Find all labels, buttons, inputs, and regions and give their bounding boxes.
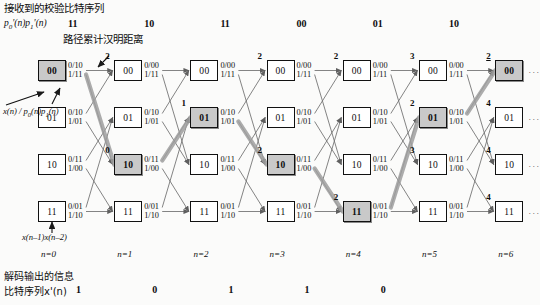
state-node-01-stage-5[interactable]: 01: [419, 107, 447, 128]
path-metric-01-stage-5: 2: [410, 98, 415, 108]
edge-label-one: 1/11: [144, 70, 159, 79]
edge-label-one: 1/00: [68, 164, 83, 173]
edge-11-to-01-stage-0: [86, 118, 113, 208]
path-metric-10-stage-5: 3: [410, 145, 415, 155]
survivor-path-segment-4: [391, 118, 419, 208]
path-metric-10-stage-6: 4: [486, 145, 491, 155]
state-node-00-stage-1[interactable]: 00: [114, 60, 142, 81]
state-node-label: 10: [352, 160, 362, 170]
edge-01-to-00-stage-2: [238, 71, 265, 114]
edge-label-pair-10-stage-4: 0/111/00: [373, 155, 388, 174]
decoded-bit: 1: [228, 285, 233, 295]
state-node-11-stage-4[interactable]: 11: [343, 201, 371, 222]
edge-label-one: 1/11: [373, 70, 388, 79]
path-metric-00-stage-3: 2: [258, 51, 263, 61]
continuation-marker-00: ···: [528, 67, 540, 77]
state-node-00-stage-5[interactable]: 00: [419, 60, 447, 81]
state-node-10-stage-3[interactable]: 10: [267, 154, 295, 175]
survivor-path-segment-3: [315, 169, 343, 212]
stage-label-3: n=3: [270, 250, 285, 259]
state-node-10-stage-2[interactable]: 10: [190, 154, 218, 175]
edge-label-pair-10-stage-0: 0/111/00: [68, 155, 83, 174]
edge-label-one: 1/00: [220, 164, 235, 173]
path-metric-01-stage-6: 4: [486, 98, 491, 108]
continuation-marker-10: ···: [528, 161, 540, 171]
state-node-00-stage-3[interactable]: 00: [267, 60, 295, 81]
state-node-11-stage-2[interactable]: 11: [190, 201, 218, 222]
edge-label-one: 1/10: [373, 211, 388, 220]
edge-label-one: 1/00: [373, 164, 388, 173]
state-node-10-stage-6[interactable]: 10: [495, 154, 523, 175]
stage-label-6: n=6: [498, 250, 513, 259]
state-node-label: 01: [428, 113, 438, 123]
edge-label-pair-11-stage-1: 0/011/10: [144, 202, 159, 221]
edge-00-to-10-stage-3: [315, 75, 342, 165]
edge-label-pair-10-stage-2: 0/111/00: [220, 155, 235, 174]
state-node-00-stage-4[interactable]: 00: [343, 60, 371, 81]
decoded-bit: 1: [76, 285, 81, 295]
edge-label-zero: 0/01: [449, 202, 464, 211]
edge-01-to-00-stage-3: [315, 71, 342, 114]
state-node-label: 10: [504, 160, 514, 170]
state-node-01-stage-3[interactable]: 01: [267, 107, 295, 128]
continuation-marker-11: ···: [528, 208, 540, 218]
state-node-11-stage-0[interactable]: 11: [38, 201, 66, 222]
continuation-marker-01: ···: [528, 114, 540, 124]
stage-label-2: n=2: [193, 250, 208, 259]
state-node-label: 01: [123, 113, 133, 123]
state-node-01-stage-6[interactable]: 01: [495, 107, 523, 128]
state-node-11-stage-1[interactable]: 11: [114, 201, 142, 222]
stage-label-0: n=0: [41, 250, 56, 259]
edge-label-one: 1/00: [449, 164, 464, 173]
edge-label-pair-11-stage-3: 0/011/10: [297, 202, 312, 221]
edge-label-one: 1/11: [449, 70, 464, 79]
edge-10-to-11-stage-0: [86, 169, 113, 212]
state-node-01-stage-1[interactable]: 01: [114, 107, 142, 128]
state-node-01-stage-2[interactable]: 01: [190, 107, 218, 128]
edge-label-one: 1/11: [220, 70, 235, 79]
state-node-label: 11: [200, 207, 210, 217]
state-node-label: 01: [504, 113, 514, 123]
state-node-label: 01: [199, 113, 209, 123]
state-node-label: 10: [123, 160, 133, 170]
edge-label-one: 1/10: [449, 211, 464, 220]
state-node-00-stage-6[interactable]: 00: [495, 60, 523, 81]
state-node-00-stage-0[interactable]: 00: [38, 60, 66, 81]
state-node-label: 10: [276, 160, 286, 170]
decoded-bit: 0: [381, 285, 386, 295]
edge-label-pair-11-stage-2: 0/011/10: [220, 202, 235, 221]
state-node-label: 00: [504, 66, 514, 76]
stage-label-4: n=4: [346, 250, 361, 259]
edge-label-zero: 0/00: [144, 61, 159, 70]
edge-label-pair-11-stage-5: 0/011/10: [449, 202, 464, 221]
state-node-label: 11: [276, 207, 286, 217]
state-node-label: 00: [199, 66, 209, 76]
state-node-10-stage-4[interactable]: 10: [343, 154, 371, 175]
state-node-10-stage-5[interactable]: 10: [419, 154, 447, 175]
state-node-10-stage-0[interactable]: 10: [38, 154, 66, 175]
state-node-11-stage-3[interactable]: 11: [267, 201, 295, 222]
decoded-bit: 1: [305, 285, 310, 295]
edge-label-zero: 0/10: [449, 108, 464, 117]
state-node-label: 00: [276, 66, 286, 76]
edge-label-one: 1/10: [144, 211, 159, 220]
edge-label-zero: 0/01: [297, 202, 312, 211]
edge-label-pair-11-stage-4: 0/011/10: [373, 202, 388, 221]
state-node-00-stage-2[interactable]: 00: [190, 60, 218, 81]
state-node-11-stage-6[interactable]: 11: [495, 201, 523, 222]
edge-label-one: 1/01: [373, 117, 388, 126]
edge-10-to-11-stage-1: [162, 169, 189, 212]
state-node-label: 10: [47, 160, 57, 170]
edge-label-pair-11-stage-0: 0/011/10: [68, 202, 83, 221]
state-node-label: 00: [47, 66, 57, 76]
edge-label-zero: 0/01: [220, 202, 235, 211]
state-node-01-stage-4[interactable]: 01: [343, 107, 371, 128]
state-node-11-stage-5[interactable]: 11: [419, 201, 447, 222]
state-node-label: 11: [123, 207, 133, 217]
edge-label-zero: 0/11: [220, 155, 235, 164]
state-node-10-stage-1[interactable]: 10: [114, 154, 142, 175]
state-node-label: 01: [352, 113, 362, 123]
edge-label-pair-00-stage-2: 0/001/11: [220, 61, 235, 80]
edge-label-zero: 0/11: [144, 155, 159, 164]
edge-label-zero: 0/11: [373, 155, 388, 164]
